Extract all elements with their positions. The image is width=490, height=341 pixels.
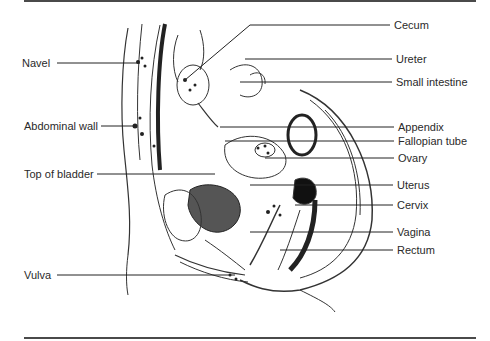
label-appendix: Appendix — [398, 121, 444, 133]
leader-cecum — [185, 25, 390, 80]
label-vulva: Vulva — [24, 269, 51, 281]
leader-lines — [57, 25, 394, 275]
cecum-shape — [177, 65, 209, 105]
label-rectum: Rectum — [397, 244, 435, 256]
label-vagina: Vagina — [397, 226, 430, 238]
label-ureter: Ureter — [396, 53, 427, 65]
rectum-shape — [290, 200, 315, 270]
label-abdominal-wall: Abdominal wall — [24, 120, 98, 132]
bladder-shape — [188, 185, 240, 232]
label-small-intestine: Small intestine — [396, 76, 468, 88]
label-cecum: Cecum — [394, 19, 429, 31]
label-cervix: Cervix — [397, 199, 428, 211]
label-navel: Navel — [22, 57, 50, 69]
abdominal-wall-outline — [122, 28, 130, 255]
label-top-of-bladder: Top of bladder — [24, 168, 94, 180]
uterus-shape — [225, 136, 286, 178]
label-uterus: Uterus — [397, 179, 429, 191]
colon-section — [288, 115, 316, 155]
label-fallopian-tube: Fallopian tube — [398, 135, 467, 147]
vagina-shape — [250, 205, 280, 265]
label-ovary: Ovary — [398, 152, 427, 164]
